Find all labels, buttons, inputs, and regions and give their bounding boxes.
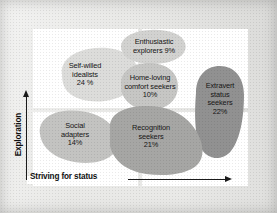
label-social-adapters: Social adapters 14% bbox=[44, 122, 106, 148]
figure-canvas: Self-willed idealists 24 % Enthusiastic … bbox=[0, 0, 277, 213]
y-axis-line bbox=[26, 96, 27, 180]
y-axis-label: Exploration bbox=[14, 105, 23, 165]
x-axis-arrow-icon bbox=[225, 176, 232, 182]
x-axis-label: Striving for status bbox=[30, 172, 97, 181]
label-self-willed-idealists: Self-willed idealists 24 % bbox=[55, 62, 115, 88]
label-line: explorers 9% bbox=[118, 47, 190, 56]
label-home-loving-comfort-seekers: Home-loving comfort seekers 10% bbox=[112, 74, 188, 100]
segment-value: 22% bbox=[192, 108, 248, 117]
label-enthusiastic-explorers: Enthusiastic explorers 9% bbox=[118, 38, 190, 55]
segment-value: 21% bbox=[114, 141, 188, 150]
segment-value: 14% bbox=[44, 139, 106, 148]
label-recognition-seekers: Recognition seekers 21% bbox=[114, 124, 188, 150]
segment-value: 24 % bbox=[55, 79, 115, 88]
label-extravert-status-seekers: Extravert status seekers 22% bbox=[192, 82, 248, 116]
y-axis-arrow-icon bbox=[23, 90, 29, 97]
segment-value: 10% bbox=[112, 91, 188, 100]
